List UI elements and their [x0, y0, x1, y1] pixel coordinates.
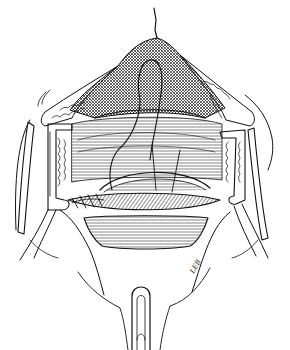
right-retractor — [220, 128, 268, 258]
left-retractor — [18, 122, 72, 260]
illustration-drawing — [0, 0, 290, 350]
sutured-incision — [68, 193, 220, 210]
skin-folds — [30, 240, 258, 350]
cone-tip — [154, 8, 157, 38]
peritoneal-cone — [70, 38, 225, 118]
instrument-handle — [132, 287, 150, 350]
surgical-illustration: LEB — [0, 0, 290, 350]
